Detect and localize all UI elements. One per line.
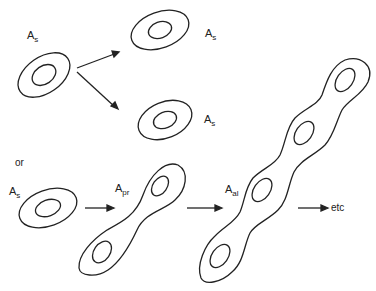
cell-as-top	[126, 3, 195, 57]
cell-apr	[79, 164, 185, 278]
label-apr: Apr	[115, 183, 129, 197]
label-as-bottom: As	[204, 114, 215, 128]
cell-aal	[200, 59, 370, 283]
arrow-to-etc	[298, 205, 328, 211]
label-as-row2: As	[9, 186, 20, 200]
label-aal: Aal	[225, 184, 239, 198]
or-text: or	[15, 157, 24, 168]
diagram-canvas	[0, 0, 376, 291]
cell-as-bottom	[132, 93, 197, 147]
split-arrows	[77, 51, 119, 109]
cell-as-row2	[14, 181, 83, 235]
etc-text: etc	[331, 202, 344, 213]
arrow-to-apr	[85, 205, 114, 211]
cell-as-source	[10, 44, 78, 107]
label-as-top: As	[205, 28, 216, 42]
arrow-to-aal	[187, 205, 222, 211]
label-as-source: As	[27, 30, 38, 44]
